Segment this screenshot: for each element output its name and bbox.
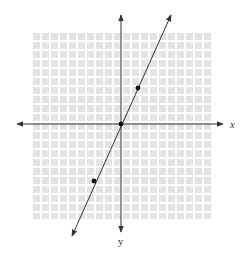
y-axis-label: y <box>118 235 124 247</box>
point-p2 <box>92 179 97 184</box>
coordinate-plane: x y <box>0 0 246 262</box>
point-p1 <box>136 86 141 91</box>
point-origin <box>119 122 124 127</box>
x-axis-label: x <box>229 118 235 130</box>
